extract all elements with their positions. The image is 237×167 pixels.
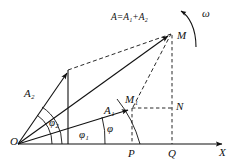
label-axis-x: X bbox=[219, 147, 226, 158]
vector-a2-line bbox=[18, 73, 67, 144]
label-angle-phi: φ bbox=[107, 123, 113, 134]
angle-arc-phi bbox=[117, 99, 140, 144]
vector-diagram bbox=[0, 0, 237, 167]
label-resultant: A=A₁+A₂ bbox=[111, 13, 148, 23]
label-point-m: M bbox=[177, 30, 186, 41]
label-point-n: N bbox=[176, 101, 183, 112]
figure-canvas: O X M M₁ N P Q A₁ A₂ A=A₁+A₂ ω φ φ₁ φ₂ bbox=[0, 0, 237, 167]
vector-resultant-line bbox=[18, 36, 168, 144]
label-omega: ω bbox=[202, 8, 210, 19]
label-vector-a1: A₁ bbox=[104, 105, 115, 116]
label-angle-phi1: φ₁ bbox=[79, 129, 89, 140]
angle-arc-phi1 bbox=[102, 117, 105, 144]
label-vector-a2: A₂ bbox=[24, 88, 35, 99]
label-point-q: Q bbox=[168, 148, 176, 159]
label-point-m1: M₁ bbox=[125, 94, 138, 105]
label-point-p: P bbox=[128, 148, 135, 159]
label-origin: O bbox=[10, 136, 18, 147]
label-angle-phi2: φ₂ bbox=[49, 117, 59, 128]
